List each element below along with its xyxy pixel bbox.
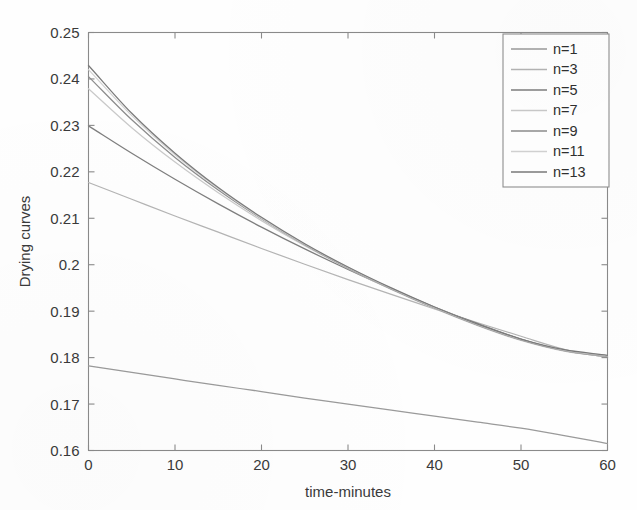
x-tick-label: 40 <box>426 456 443 473</box>
y-tick-label: 0.23 <box>50 117 79 134</box>
y-tick-label: 0.2 <box>59 256 80 273</box>
y-tick-label: 0.24 <box>50 70 79 87</box>
x-axis-title: time-minutes <box>305 483 391 500</box>
x-tick-label: 30 <box>340 456 357 473</box>
y-tick-label: 0.19 <box>50 303 79 320</box>
y-tick-label: 0.18 <box>50 349 79 366</box>
chart-legend[interactable]: n=1n=3n=5n=7n=9n=11n=13 <box>503 34 609 187</box>
x-tick-label: 60 <box>599 456 616 473</box>
legend-label[interactable]: n=7 <box>553 102 578 118</box>
legend-label[interactable]: n=9 <box>553 123 578 139</box>
y-tick-label: 0.25 <box>50 24 79 41</box>
x-tick-label: 0 <box>84 456 92 473</box>
legend-label[interactable]: n=5 <box>553 82 578 98</box>
line-chart: 01020304050600.160.170.180.190.20.210.22… <box>0 0 637 510</box>
x-tick-label: 50 <box>513 456 530 473</box>
legend-label[interactable]: n=3 <box>553 61 578 77</box>
x-tick-label: 20 <box>253 456 270 473</box>
curve-n1 <box>89 366 608 444</box>
y-tick-label: 0.16 <box>50 442 79 459</box>
y-axis-title: Drying curves <box>16 196 33 288</box>
curve-n3 <box>89 183 608 358</box>
x-tick-label: 10 <box>167 456 184 473</box>
legend-label[interactable]: n=1 <box>553 41 578 57</box>
figure-canvas: 01020304050600.160.170.180.190.20.210.22… <box>0 0 637 510</box>
legend-label[interactable]: n=11 <box>553 143 585 159</box>
y-tick-label: 0.17 <box>50 396 79 413</box>
y-tick-label: 0.21 <box>50 210 79 227</box>
legend-label[interactable]: n=13 <box>553 164 586 180</box>
y-tick-label: 0.22 <box>50 163 79 180</box>
